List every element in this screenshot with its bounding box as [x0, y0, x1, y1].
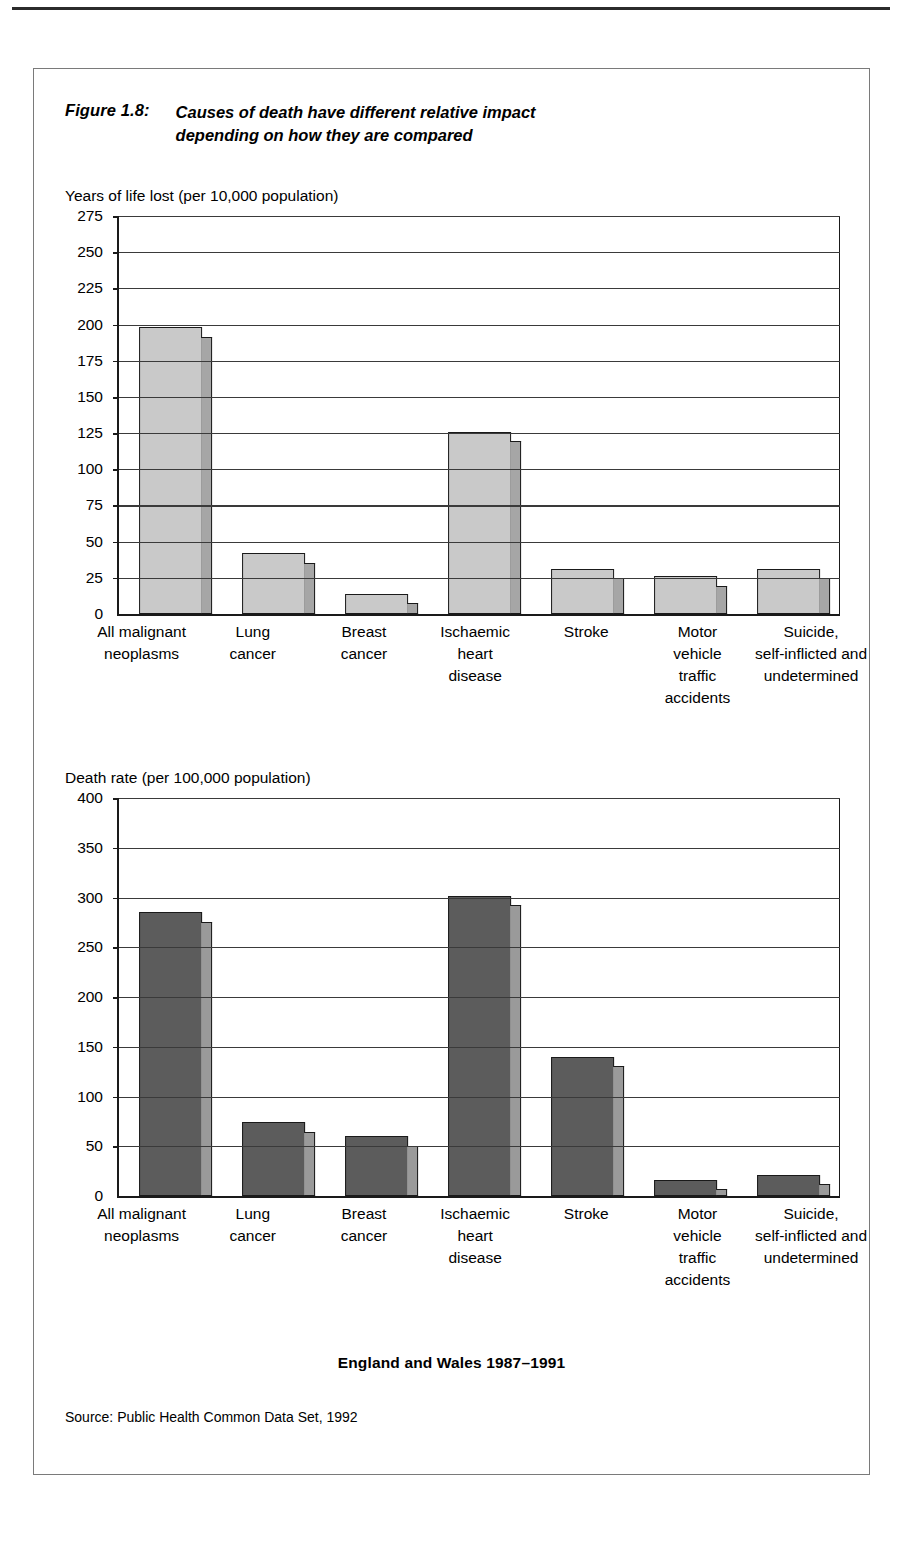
x-axis-label-line: Breast	[310, 621, 417, 643]
bar-shadow	[201, 337, 212, 615]
x-axis-label-line: Motor	[644, 621, 751, 643]
bar	[242, 553, 306, 614]
x-axis-label-line: All malignant	[88, 1203, 195, 1225]
x-axis-label-line: disease	[422, 665, 529, 687]
y-tick-label: 50	[86, 1137, 103, 1155]
bar	[345, 594, 409, 614]
x-axis-label: Suicide,self-inflicted andundetermined	[753, 621, 869, 709]
figure-title-line-1: Causes of death have different relative …	[176, 101, 536, 124]
y-axis-tick	[113, 505, 119, 507]
x-axis-label: Ischaemicheartdisease	[420, 621, 531, 709]
bar-shadow	[304, 563, 315, 615]
y-axis-tick	[113, 252, 119, 254]
y-axis-tick	[113, 1097, 119, 1099]
x-axis-label: Lungcancer	[197, 1203, 308, 1291]
y-axis-tick	[113, 947, 119, 949]
gridline	[119, 288, 840, 289]
y-tick-label: 125	[77, 424, 103, 442]
y-tick-label: 100	[77, 460, 103, 478]
bar	[654, 1180, 718, 1196]
bar-shadow	[304, 1132, 315, 1197]
y-axis-tick	[113, 798, 119, 800]
y-axis-tick	[113, 848, 119, 850]
chart-2-death-rate: 050100150200250300350400	[65, 798, 840, 1198]
x-axis-label-line: cancer	[310, 643, 417, 665]
y-axis-tick	[113, 542, 119, 544]
x-axis-label-line: cancer	[310, 1225, 417, 1247]
bar-shadow	[716, 1189, 727, 1196]
gridline	[119, 542, 840, 543]
figure-title: Causes of death have different relative …	[176, 101, 536, 147]
x-axis-label: All malignantneoplasms	[86, 621, 197, 709]
x-axis-label-line: accidents	[644, 1269, 751, 1291]
bar-cell	[325, 216, 428, 614]
x-axis-label: All malignantneoplasms	[86, 1203, 197, 1291]
bar-cell	[222, 216, 325, 614]
gridline	[119, 848, 840, 849]
y-tick-label: 50	[86, 533, 103, 551]
gridline	[119, 252, 840, 253]
gridline	[119, 1146, 840, 1147]
chart-1-x-axis-labels: All malignantneoplasmsLungcancerBreastca…	[86, 621, 869, 709]
y-tick-label: 400	[77, 789, 103, 807]
x-axis-label-line: self-inflicted and	[755, 643, 867, 665]
y-axis-tick	[113, 433, 119, 435]
y-tick-label: 25	[86, 569, 103, 587]
x-axis-label-line: heart	[422, 1225, 529, 1247]
gridline	[119, 325, 840, 326]
gridline	[119, 798, 840, 799]
gridline	[119, 578, 840, 579]
bar-shadow	[201, 922, 212, 1197]
chart-1-bars	[119, 216, 840, 614]
page-top-rule	[12, 7, 890, 10]
x-axis-label: Suicide,self-inflicted andundetermined	[753, 1203, 869, 1291]
gridline	[119, 216, 840, 217]
bar	[551, 1057, 615, 1196]
gridline	[119, 1097, 840, 1098]
bar-shadow	[819, 1184, 830, 1196]
x-axis-label-line: traffic	[644, 665, 751, 687]
chart-2-y-axis-labels: 050100150200250300350400	[65, 798, 111, 1198]
x-axis-label-line: self-inflicted and	[755, 1225, 867, 1247]
gridline	[119, 361, 840, 362]
x-axis-label-line: Ischaemic	[422, 621, 529, 643]
y-tick-label: 75	[86, 496, 103, 514]
bar	[448, 432, 512, 614]
y-tick-label: 225	[77, 279, 103, 297]
chart-2-x-axis-labels: All malignantneoplasmsLungcancerBreastca…	[86, 1203, 869, 1291]
y-tick-label: 150	[77, 1038, 103, 1056]
y-axis-tick	[113, 1146, 119, 1148]
bar-shadow	[407, 603, 418, 614]
figure-number: Figure 1.8:	[65, 101, 150, 120]
y-tick-label: 250	[77, 938, 103, 956]
x-axis-label: Lungcancer	[197, 621, 308, 709]
gridline	[119, 997, 840, 998]
x-axis-label: Stroke	[531, 1203, 642, 1291]
bar	[654, 576, 718, 614]
y-axis-tick	[113, 216, 119, 218]
x-axis-label-line: undetermined	[755, 665, 867, 687]
x-axis-label-line: All malignant	[88, 621, 195, 643]
y-tick-label: 250	[77, 243, 103, 261]
y-axis-tick	[113, 898, 119, 900]
gridline	[119, 1047, 840, 1048]
x-axis-label-line: cancer	[199, 643, 306, 665]
x-axis-label-line: disease	[422, 1247, 529, 1269]
x-axis-label-line: Stroke	[533, 621, 640, 643]
x-axis-label-line: Ischaemic	[422, 1203, 529, 1225]
bar-shadow	[613, 578, 624, 614]
bar-cell	[531, 216, 634, 614]
bar	[551, 569, 615, 614]
x-axis-label-line: Lung	[199, 1203, 306, 1225]
figure-footer-title: England and Wales 1987–1991	[34, 1354, 869, 1372]
bar	[757, 569, 821, 614]
bar-cell	[119, 216, 222, 614]
y-axis-tick	[113, 997, 119, 999]
x-axis-label: Stroke	[531, 621, 642, 709]
y-axis-tick	[113, 1047, 119, 1049]
x-axis-label-line: Motor	[644, 1203, 751, 1225]
y-tick-label: 200	[77, 988, 103, 1006]
gridline	[119, 505, 840, 506]
gridline	[119, 433, 840, 434]
x-axis-label: Breastcancer	[308, 1203, 419, 1291]
